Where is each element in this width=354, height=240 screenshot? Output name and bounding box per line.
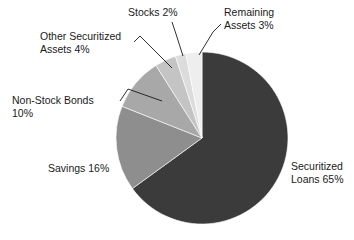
- pie-chart-figure: Stocks 2% Remaining Assets 3% Other Secu…: [0, 0, 354, 240]
- leader-line-remaining-assets: [199, 24, 221, 55]
- slice-label-non-stock-bonds: Non-Stock Bonds 10%: [12, 94, 122, 119]
- slice-label-remaining-assets: Remaining Assets 3%: [224, 6, 304, 31]
- slice-label-savings: Savings 16%: [48, 162, 134, 175]
- pie-slice-group: [116, 52, 288, 224]
- slice-label-stocks: Stocks 2%: [128, 6, 198, 19]
- slice-label-securitized-loans: Securitized Loans 65%: [291, 160, 354, 185]
- leader-line-stocks: [172, 22, 183, 56]
- slice-label-other-securitized-assets: Other Securitized Assets 4%: [40, 30, 145, 55]
